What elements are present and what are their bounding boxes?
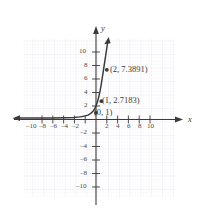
y-tick-label: 4: [84, 89, 88, 96]
x-tick-label: 10: [147, 123, 154, 130]
point-label-0-1: (0, 1): [94, 108, 112, 117]
y-axis-label: y: [101, 24, 105, 33]
exponential-function-graph-figure: y x –10 –8 –6 –4 –2 2 4 6 8 10 10 8 6 4 …: [0, 0, 207, 217]
x-axis-label: x: [188, 115, 192, 124]
x-tick-label: 6: [127, 123, 131, 130]
y-tick-label: –10: [76, 183, 87, 190]
point-2-7-3891: [105, 68, 109, 72]
y-tick-label: 10: [79, 48, 86, 55]
x-tick-label: 2: [105, 123, 109, 130]
x-tick-label: –10: [26, 123, 37, 130]
x-tick-label: 4: [116, 123, 120, 130]
point-label-1-2-7183: (1, 2.7183): [102, 96, 140, 105]
y-tick-label: –6: [80, 156, 87, 163]
y-tick-label: 2: [84, 102, 88, 109]
y-tick-label: –8: [80, 170, 87, 177]
x-tick-label: –6: [50, 123, 57, 130]
point-label-2-7-3891: (2, 7.3891): [110, 65, 148, 74]
y-tick-label: –4: [80, 143, 87, 150]
x-tick-label: 8: [138, 123, 142, 130]
y-tick-label: 8: [84, 62, 88, 69]
y-tick-label: 6: [84, 75, 88, 82]
x-tick-label: –8: [39, 123, 46, 130]
x-tick-label: –2: [72, 123, 79, 130]
x-tick-label: –4: [61, 123, 68, 130]
y-tick-label: –2: [80, 129, 87, 136]
